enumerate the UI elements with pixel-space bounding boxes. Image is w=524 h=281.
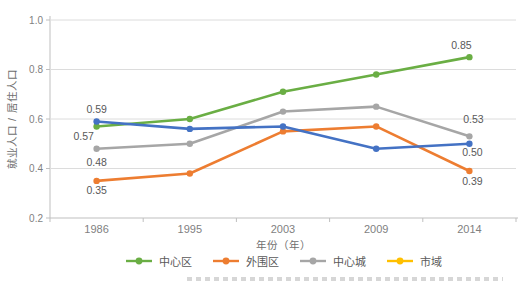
data-point [280,123,286,129]
legend-swatch-icon [125,256,153,266]
data-point [466,133,472,139]
cropped-caption [187,277,503,281]
value-label: 0.59 [86,103,107,115]
value-label: 0.85 [451,39,472,51]
data-point [280,89,286,95]
legend-swatch-icon [212,256,240,266]
value-label: 0.50 [462,146,483,158]
data-point [466,168,472,174]
data-point [466,54,472,60]
line-chart: 就业人口 / 居住人口 1.00.80.60.40.21986199520032… [0,0,524,281]
x-tick-label: 1995 [178,223,202,235]
x-tick-label: 2014 [457,223,481,235]
data-point [280,108,286,114]
value-label: 0.39 [462,175,483,187]
series-line-2 [97,126,470,180]
legend-label: 中心区 [159,253,192,269]
x-tick-label: 2009 [364,223,388,235]
legend-swatch-icon [386,256,414,266]
x-axis-title: 年份（年） [50,237,516,252]
data-point [187,116,193,122]
legend-label: 外围区 [246,253,279,269]
data-point [187,126,193,132]
value-label: 0.35 [86,184,107,196]
data-point [373,123,379,129]
value-label: 0.48 [86,156,107,168]
data-point [373,103,379,109]
legend-label: 中心城 [333,253,366,269]
legend-item-3: 中心城 [299,253,366,269]
legend-label: 市域 [420,253,442,269]
data-point [93,118,99,124]
y-tick-label: 0.6 [29,114,43,125]
data-point [373,71,379,77]
legend-item-1: 中心区 [125,253,192,269]
legend-swatch-icon [299,256,327,266]
x-tick-label: 2003 [271,223,295,235]
legend: 中心区外围区中心城市域 [50,253,516,269]
y-tick-label: 0.8 [29,64,43,75]
legend-item-4: 市域 [386,253,442,269]
data-point [187,170,193,176]
y-tick-label: 0.2 [29,213,43,224]
data-point [93,146,99,152]
y-tick-label: 1.0 [29,15,43,26]
value-label: 0.57 [73,130,94,142]
y-tick-label: 0.4 [29,163,43,174]
data-point [187,141,193,147]
x-tick-label: 1986 [84,223,108,235]
legend-item-2: 外围区 [212,253,279,269]
data-point [373,146,379,152]
value-label: 0.53 [463,113,484,125]
